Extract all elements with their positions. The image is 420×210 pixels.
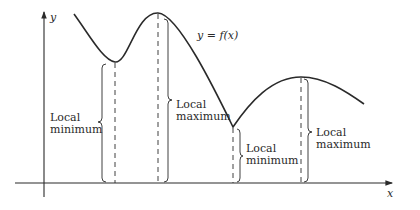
label-local-min-1: Local minimum <box>50 111 103 136</box>
label-local-min-2-line2: minimum <box>246 154 299 167</box>
label-local-min-2: Local minimum <box>246 142 299 167</box>
label-local-max-1-line2: maximum <box>176 110 231 123</box>
brace-local-min-2 <box>237 129 243 182</box>
brace-local-max-2 <box>304 79 312 182</box>
label-local-max-2: Local maximum <box>316 126 371 151</box>
y-axis-label: y <box>49 11 57 24</box>
label-local-max-1: Local maximum <box>176 98 231 123</box>
curve-label: y = f(x) <box>196 29 238 42</box>
local-extrema-diagram: y x y = f(x) Local minimum Local maximum… <box>0 0 420 210</box>
brace-local-max-1 <box>164 19 172 182</box>
label-local-min-1-line2: minimum <box>50 123 103 136</box>
label-local-max-2-line2: maximum <box>316 138 371 151</box>
x-axis-label: x <box>387 187 394 200</box>
